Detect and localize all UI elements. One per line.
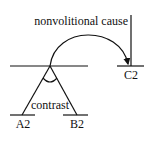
node-label-a2: A2 bbox=[16, 117, 31, 131]
node-label-c2: C2 bbox=[124, 68, 138, 82]
relation-label-nonvolitional-cause: nonvolitional cause bbox=[34, 14, 128, 28]
node-label-b2: B2 bbox=[70, 117, 84, 131]
relation-diagram: nonvolitional cause contrast A2 B2 C2 bbox=[0, 0, 154, 144]
relation-arc-arrow bbox=[50, 35, 128, 66]
angle-mark bbox=[43, 78, 57, 82]
relation-label-contrast: contrast bbox=[31, 98, 70, 112]
